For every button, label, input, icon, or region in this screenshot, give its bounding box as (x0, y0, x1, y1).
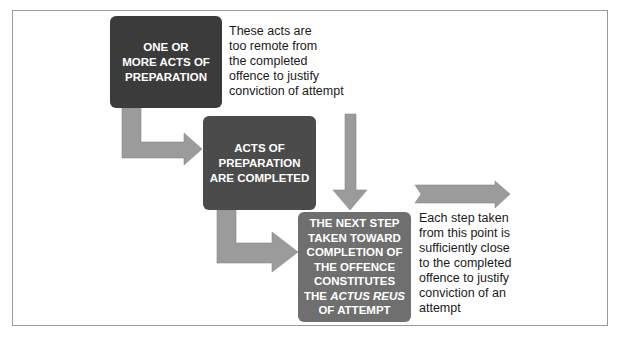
arrow-stage1-to-stage2 (122, 108, 202, 165)
stage-text-line: TAKEN TOWARD (304, 231, 405, 246)
note-line: the completed (229, 54, 344, 69)
note-line: Each step taken (419, 211, 511, 226)
note-line: offence to justify (419, 271, 511, 286)
note-too-remote: These acts are too remote from the compl… (229, 24, 344, 99)
stage-text-line: MORE ACTS OF (122, 55, 210, 70)
note-line: conviction of an (419, 286, 511, 301)
note-line: These acts are (229, 24, 344, 39)
stage-text-line: ONE OR (122, 40, 210, 55)
stage-text-line: OF ATTEMPT (304, 303, 405, 318)
note-line: attempt (419, 301, 511, 316)
stage-text-line: PREPARATION (122, 70, 210, 85)
actus-reus-term: ACTUS REUS (330, 290, 405, 302)
stage-actus-reus-box: THE NEXT STEP TAKEN TOWARD COMPLETION OF… (298, 212, 411, 322)
note-line: sufficiently close (419, 241, 511, 256)
note-line: offence to justify (229, 69, 344, 84)
note-line: too remote from (229, 39, 344, 54)
stage-text-line: ARE COMPLETED (210, 171, 310, 186)
stage-preparation-box: ONE OR MORE ACTS OF PREPARATION (110, 16, 222, 108)
arrow-down-to-stage3 (333, 114, 367, 210)
arrow-stage2-to-stage3 (217, 210, 298, 272)
stage-text-prefix: THE (304, 290, 330, 302)
stage-text-line-actus-reus: THE ACTUS REUS (304, 289, 405, 304)
stage-preparation-completed-box: ACTS OF PREPARATION ARE COMPLETED (203, 116, 316, 210)
note-sufficiently-close: Each step taken from this point is suffi… (419, 211, 511, 316)
stage-text-line: CONSTITUTES (304, 274, 405, 289)
note-line: conviction of attempt (229, 84, 344, 99)
stage-text-line: THE NEXT STEP (304, 216, 405, 231)
stage-text-line: THE OFFENCE (304, 260, 405, 275)
stage-text-line: PREPARATION (210, 156, 310, 171)
stage-text-line: ACTS OF (210, 141, 310, 156)
note-line: from this point is (419, 226, 511, 241)
arrow-right-onward (415, 181, 510, 208)
note-line: to the completed (419, 256, 511, 271)
stage-text-line: COMPLETION OF (304, 245, 405, 260)
